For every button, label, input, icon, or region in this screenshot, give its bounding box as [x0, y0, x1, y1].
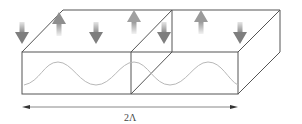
arrow-up-icon: [194, 10, 208, 34]
arrow-down-icon: [233, 22, 247, 44]
arrow-down-icon: [157, 22, 171, 44]
arrow-up-icon: [52, 12, 66, 36]
right-bottom-diagonal: [238, 52, 280, 94]
dimension-arrow: [22, 105, 238, 109]
right-top-diagonal: [238, 10, 280, 52]
front-face: [22, 52, 238, 94]
arrow-up-icon: [127, 10, 141, 34]
middle-bottom-diagonal: [131, 52, 172, 94]
magnetization-arrows: [15, 10, 247, 44]
arrow-down-icon: [89, 22, 103, 44]
arrow-down-icon: [15, 22, 29, 44]
dimension-label: 2Λ: [124, 112, 136, 123]
periodic-domain-diagram: [0, 0, 302, 124]
